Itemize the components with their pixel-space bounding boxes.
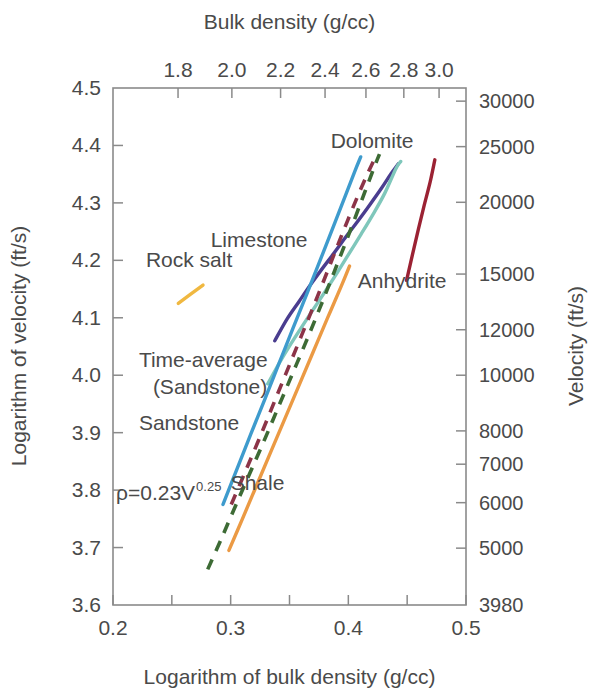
- top-axis-title: Bulk density (g/cc): [204, 10, 376, 33]
- right-tick-label: 3980: [479, 594, 524, 616]
- bottom-tick-label: 0.5: [451, 616, 480, 639]
- curve-label-sandstone: Sandstone: [139, 411, 239, 434]
- bottom-axis-ticks: [113, 595, 466, 605]
- bottom-tick-label: 0.3: [216, 616, 245, 639]
- equation-base: ρ=0.23V: [116, 481, 195, 504]
- right-tick-label: 5000: [479, 537, 524, 559]
- right-tick-label: 20000: [479, 191, 535, 213]
- bottom-tick-label: 0.2: [98, 616, 127, 639]
- curve-time-average-sandstone: [231, 156, 376, 505]
- top-tick-label: 2.8: [389, 58, 418, 81]
- left-tick-label: 3.6: [72, 593, 101, 616]
- chart-svg: 1.82.02.22.42.62.83.0 0.20.30.40.5 4.54.…: [0, 0, 603, 695]
- curve-shale: [229, 266, 350, 550]
- right-tick-label: 12000: [479, 319, 535, 341]
- left-tick-label: 4.2: [72, 248, 101, 271]
- right-tick-label: 30000: [479, 90, 535, 112]
- right-tick-label: 10000: [479, 364, 535, 386]
- top-tick-label: 2.6: [351, 58, 380, 81]
- right-axis-title: Velocity (ft/s): [564, 286, 587, 406]
- right-tick-label: 7000: [479, 453, 524, 475]
- top-tick-label: 2.4: [310, 58, 340, 81]
- curve-label-shale: Shale: [231, 471, 285, 494]
- curve-dolomite: [275, 164, 399, 341]
- density-velocity-equation: ρ=0.23V 0.25: [116, 479, 221, 504]
- curve-label-sandstone-paren: (Sandstone): [153, 375, 267, 398]
- curve-label-dolomite: Dolomite: [331, 129, 414, 152]
- top-tick-label: 3.0: [424, 58, 453, 81]
- bottom-axis-title: Logarithm of bulk density (g/cc): [144, 665, 436, 688]
- right-axis-ticks: [456, 101, 466, 548]
- left-axis-title: Logarithm of velocity (ft/s): [7, 226, 30, 466]
- top-tick-label: 1.8: [163, 58, 192, 81]
- bottom-axis-tick-labels: 0.20.30.40.5: [98, 616, 480, 639]
- right-tick-label: 15000: [479, 263, 535, 285]
- top-tick-label: 2.0: [217, 58, 246, 81]
- top-axis-tick-labels: 1.82.02.22.42.62.83.0: [163, 58, 453, 81]
- left-tick-label: 3.7: [72, 536, 101, 559]
- right-axis-tick-labels: 3000025000200001500012000100008000700060…: [479, 90, 535, 616]
- right-tick-label: 6000: [479, 492, 524, 514]
- left-tick-label: 3.9: [72, 421, 101, 444]
- curve-rock-salt: [178, 285, 203, 303]
- right-tick-label: 8000: [479, 420, 524, 442]
- velocity-density-chart: 1.82.02.22.42.62.83.0 0.20.30.40.5 4.54.…: [0, 0, 603, 695]
- left-axis-tick-labels: 4.54.44.34.24.14.03.93.83.73.6: [72, 76, 102, 616]
- top-tick-label: 2.2: [266, 58, 295, 81]
- curve-label-time-average: Time-average: [139, 348, 268, 371]
- left-tick-label: 3.8: [72, 478, 101, 501]
- right-tick-label: 25000: [479, 136, 535, 158]
- left-tick-label: 4.3: [72, 191, 101, 214]
- curve-label-rock-salt: Rock salt: [146, 248, 233, 271]
- equation-exponent: 0.25: [196, 479, 221, 494]
- left-tick-label: 4.0: [72, 363, 101, 386]
- left-tick-label: 4.5: [72, 76, 101, 99]
- left-tick-label: 4.1: [72, 306, 101, 329]
- top-axis-ticks: [178, 88, 439, 98]
- curve-label-anhydrite: Anhydrite: [358, 269, 447, 292]
- bottom-tick-label: 0.4: [334, 616, 364, 639]
- curve-anhydrite: [407, 160, 435, 281]
- curve-sandstone: [223, 157, 361, 505]
- left-tick-label: 4.4: [72, 133, 102, 156]
